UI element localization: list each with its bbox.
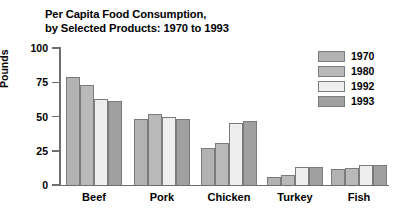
bar-group-bars [134, 48, 190, 185]
chart-container: Per Capita Food Consumption, by Selected… [0, 0, 398, 221]
bar-pork-1980[interactable] [148, 114, 162, 185]
bar-beef-1993[interactable] [108, 101, 122, 185]
bar-turkey-1993[interactable] [309, 167, 323, 185]
bar-chicken-1970[interactable] [201, 148, 215, 185]
x-axis-label-beef: Beef [82, 191, 106, 203]
bar-fish-1993[interactable] [373, 165, 387, 185]
legend-item-1992[interactable]: 1992 [318, 79, 374, 93]
bar-fish-1992[interactable] [359, 165, 373, 185]
bar-group: Beef [66, 48, 122, 185]
bar-chicken-1992[interactable] [229, 123, 243, 185]
legend-item-1993[interactable]: 1993 [318, 94, 374, 108]
legend-swatch-1993 [318, 96, 345, 107]
bar-chicken-1980[interactable] [215, 143, 229, 185]
legend-label-1992: 1992 [351, 80, 374, 92]
x-axis-label-fish: Fish [348, 191, 371, 203]
chart-title-line-1: Per Capita Food Consumption, [45, 7, 365, 21]
bar-chicken-1993[interactable] [243, 121, 257, 185]
bar-pork-1970[interactable] [134, 119, 148, 185]
chart-legend: 1970198019921993 [318, 49, 374, 109]
x-axis-label-chicken: Chicken [208, 191, 251, 203]
y-axis-tick-label: 75 [36, 76, 48, 88]
bar-turkey-1980[interactable] [281, 175, 295, 185]
x-axis-label-pork: Pork [150, 191, 174, 203]
bar-turkey-1970[interactable] [267, 177, 281, 185]
legend-item-1970[interactable]: 1970 [318, 49, 374, 63]
bar-fish-1970[interactable] [331, 169, 345, 185]
bar-pork-1993[interactable] [176, 119, 190, 185]
y-axis-tick-label: 50 [36, 111, 48, 123]
bar-fish-1980[interactable] [345, 168, 359, 185]
legend-label-1993: 1993 [351, 95, 374, 107]
legend-swatch-1970 [318, 51, 345, 62]
legend-swatch-1992 [318, 81, 345, 92]
chart-title-line-2: by Selected Products: 1970 to 1993 [45, 21, 365, 35]
bar-beef-1970[interactable] [66, 77, 80, 185]
y-axis-title: Pounds [0, 50, 10, 89]
legend-swatch-1980 [318, 66, 345, 77]
bar-group: Chicken [201, 48, 257, 185]
bar-beef-1980[interactable] [80, 85, 94, 185]
bar-group-bars [66, 48, 122, 185]
y-axis-tick-label: 0 [42, 179, 48, 191]
bar-beef-1992[interactable] [94, 99, 108, 185]
bar-turkey-1992[interactable] [295, 167, 309, 185]
legend-label-1980: 1980 [351, 65, 374, 77]
bar-group: Pork [134, 48, 190, 185]
bar-group: Turkey [267, 48, 323, 185]
x-axis-label-turkey: Turkey [277, 191, 312, 203]
legend-label-1970: 1970 [351, 50, 374, 62]
legend-item-1980[interactable]: 1980 [318, 64, 374, 78]
bar-group-bars [201, 48, 257, 185]
y-axis-tick-label: 100 [30, 42, 48, 54]
y-axis-tick-label: 25 [36, 145, 48, 157]
chart-title: Per Capita Food Consumption, by Selected… [45, 7, 365, 35]
bar-pork-1992[interactable] [162, 117, 176, 186]
bar-group-bars [267, 48, 323, 185]
